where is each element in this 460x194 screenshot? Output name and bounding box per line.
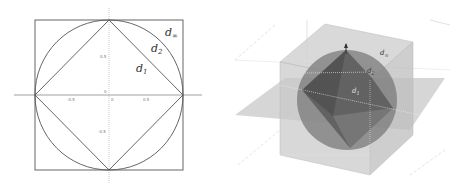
label-d1: d1 — [136, 62, 148, 76]
axis-guide — [430, 20, 450, 25]
2d-unit-balls-plot: -0.5 0 0.5 0.5 0 -0.5 d∞ d2 d1 — [0, 0, 230, 194]
y-tick-zero: 0 — [104, 89, 107, 94]
right-3d-figure: d∞ d2 d1 — [230, 0, 460, 194]
label-d2: d2 — [151, 42, 163, 56]
x-tick-half: 0.5 — [143, 97, 150, 102]
axis-guide — [238, 130, 280, 165]
axis-guide — [235, 25, 275, 60]
x-tick-neg-half: -0.5 — [67, 97, 75, 102]
axis-guide — [410, 150, 445, 175]
x-tick-zero: 0 — [111, 97, 114, 102]
label-d-inf: d∞ — [165, 26, 178, 40]
left-2d-figure: -0.5 0 0.5 0.5 0 -0.5 d∞ d2 d1 — [0, 0, 230, 194]
y-tick-half: 0.5 — [100, 54, 107, 59]
3d-unit-balls-plot: d∞ d2 d1 — [230, 0, 460, 194]
y-tick-neg-half: -0.5 — [98, 129, 106, 134]
